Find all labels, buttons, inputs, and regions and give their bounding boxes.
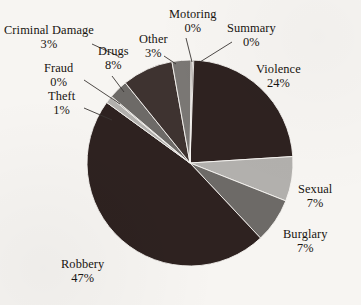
- slice-label-robbery-pct: 47%: [61, 272, 104, 286]
- slice-label-violence-pct: 24%: [256, 77, 301, 91]
- slice-label-theft-name: Theft: [48, 90, 75, 104]
- slice-label-fraud: Fraud 0%: [44, 62, 73, 90]
- slice-label-drugs: Drugs 8%: [98, 45, 129, 73]
- slice-label-robbery: Robbery 47%: [61, 258, 104, 286]
- slice-label-burglary-name: Burglary: [283, 228, 328, 242]
- slice-label-summary: Summary 0%: [227, 22, 276, 50]
- slice-label-sexual-pct: 7%: [298, 197, 332, 211]
- pie-slice-group: [87, 60, 293, 266]
- slice-label-burglary: Burglary 7%: [283, 228, 328, 256]
- slice-label-other: Other 3%: [139, 33, 168, 61]
- slice-label-sexual: Sexual 7%: [298, 183, 332, 211]
- slice-label-motoring-name: Motoring: [169, 8, 217, 22]
- slice-label-sexual-name: Sexual: [298, 183, 332, 197]
- leader-line-motoring: [186, 38, 192, 62]
- slice-label-drugs-name: Drugs: [98, 45, 129, 59]
- slice-label-summary-name: Summary: [227, 22, 276, 36]
- slice-label-violence-name: Violence: [256, 63, 301, 77]
- slice-label-other-name: Other: [139, 33, 168, 47]
- slice-label-criminal-damage-name: Criminal Damage: [4, 24, 94, 38]
- slice-label-motoring-pct: 0%: [169, 22, 217, 36]
- slice-label-robbery-name: Robbery: [61, 258, 104, 272]
- slice-label-criminal-damage: Criminal Damage 3%: [4, 24, 94, 52]
- slice-label-other-pct: 3%: [139, 47, 168, 61]
- pie-chart: Criminal Damage 3% Fraud 0% Theft 1% Dru…: [0, 0, 361, 305]
- slice-label-violence: Violence 24%: [256, 63, 301, 91]
- slice-label-theft: Theft 1%: [48, 90, 75, 118]
- slice-label-criminal-damage-pct: 3%: [4, 38, 94, 52]
- leader-line-fraud: [84, 80, 120, 104]
- slice-label-fraud-pct: 0%: [44, 76, 73, 90]
- slice-label-fraud-name: Fraud: [44, 62, 73, 76]
- slice-label-summary-pct: 0%: [227, 36, 276, 50]
- slice-label-motoring: Motoring 0%: [169, 8, 217, 36]
- slice-label-burglary-pct: 7%: [283, 242, 328, 256]
- slice-label-theft-pct: 1%: [48, 104, 75, 118]
- slice-label-drugs-pct: 8%: [98, 59, 129, 73]
